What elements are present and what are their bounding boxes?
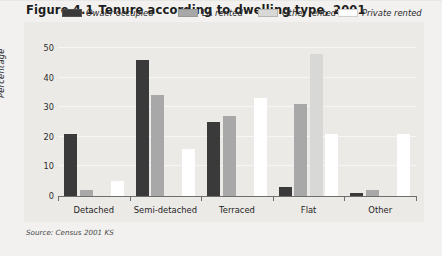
x-axis-tick-3 [273,196,274,201]
legend-label-owner-occupied: Owaer occupied [86,8,154,18]
y-axis-tick-labels: 01020304050 [24,42,56,202]
legend-swatch-other-rented [258,9,278,17]
x-axis-tick-4 [344,196,345,201]
source-note: Source: Census 2001 KS [26,228,114,237]
legend-swatch-owner-occupied [62,9,82,17]
bar-terraced-owaer-occupied [207,122,220,196]
y-axis-tick-40: 40 [44,73,54,83]
y-axis-tick-10: 10 [44,161,54,171]
bar-flat-owaer-occupied [279,187,292,196]
legend-label-private-rented: Private rented [362,8,422,18]
legend-swatch-la-rented [178,9,198,17]
bar-group-semi-detached [136,48,196,196]
bar-semi-detached-private-rented [182,149,195,196]
page-top-edge [0,0,442,1]
bar-flat-other-rented [310,54,323,196]
x-axis-label-other: Other [368,205,392,215]
x-axis-line [58,196,416,197]
bar-flat-private-rented [325,134,338,196]
legend-swatch-private-rented [338,9,358,17]
bar-other-private-rented [397,134,410,196]
bar-group-flat [279,48,339,196]
legend-label-la-rented: LA rented [202,8,243,18]
legend-label-other-rented: Other rented [282,8,336,18]
bar-terraced-private-rented [254,98,267,196]
bar-terraced-la-rented [223,116,236,196]
y-axis-tick-20: 20 [44,132,54,142]
figure-container: Figure 4.1Tenure according to dwelling t… [0,0,442,256]
bar-group-other [350,48,410,196]
y-axis-tick-30: 30 [44,102,54,112]
x-axis-label-detached: Detached [74,205,114,215]
plot-area [58,48,416,196]
y-axis-tick-0: 0 [49,191,54,201]
bar-detached-owaer-occupied [64,134,77,196]
x-axis-label-flat: Flat [301,205,317,215]
x-axis-tick-0 [58,196,59,201]
legend-item-owner-occupied: Owaer occupied [62,6,154,19]
bar-flat-la-rented [294,104,307,196]
y-axis-title: Percentage [0,48,6,98]
x-axis-tick-5 [416,196,417,201]
bar-detached-private-rented [111,181,124,196]
legend-item-la-rented: LA rented [178,6,243,19]
bar-group-detached [64,48,124,196]
x-axis-label-terraced: Terraced [219,205,255,215]
bar-group-terraced [207,48,267,196]
bar-semi-detached-la-rented [151,95,164,196]
y-axis-tick-50: 50 [44,43,54,53]
bar-semi-detached-owaer-occupied [136,60,149,196]
x-axis-tick-2 [201,196,202,201]
legend-item-other-rented: Other rented [258,6,336,19]
legend-item-private-rented: Private rented [338,6,422,19]
x-axis-label-semi-detached: Semi-detached [134,205,197,215]
chart-legend: Owaer occupied LA rented Other rented Pr… [62,6,400,19]
x-axis-tick-1 [130,196,131,201]
